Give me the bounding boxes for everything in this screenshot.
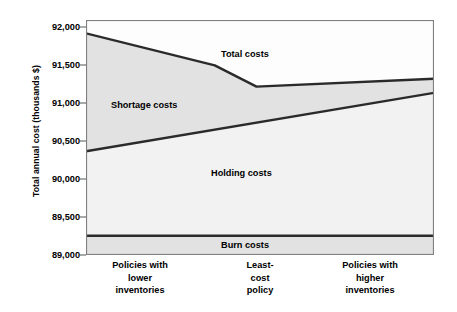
y-tick-label: 91,000 <box>22 98 80 108</box>
x-tick-line: lower <box>85 272 195 285</box>
y-axis-tick-labels: 92,000 91,500 91,000 90,500 90,000 89,50… <box>22 0 80 312</box>
x-tick-line: Policies with <box>85 259 195 272</box>
annotation-shortage-costs: Shortage costs <box>111 100 177 110</box>
x-tick-label-lower-inventories: Policies with lower inventories <box>85 259 195 297</box>
x-tick-line: Policies with <box>315 259 425 272</box>
x-tick-line: cost <box>205 272 315 285</box>
annotation-total-costs: Total costs <box>221 49 269 59</box>
y-tick-label: 92,000 <box>22 22 80 32</box>
x-tick-line: inventories <box>85 284 195 297</box>
x-axis-tick-labels: Policies with lower inventories Least- c… <box>86 259 434 311</box>
y-tick-label: 89,000 <box>22 250 80 260</box>
x-tick-line: policy <box>205 284 315 297</box>
chart-container: Total annual cost (thousands $) 92,000 9… <box>0 0 457 312</box>
annotation-holding-costs: Holding costs <box>211 168 272 178</box>
y-tick-label: 89,500 <box>22 212 80 222</box>
x-tick-line: higher <box>315 272 425 285</box>
x-tick-label-least-cost-policy: Least- cost policy <box>205 259 315 297</box>
y-tick-label: 90,500 <box>22 136 80 146</box>
y-tick-label: 91,500 <box>22 60 80 70</box>
annotation-burn-costs: Burn costs <box>221 240 269 250</box>
x-tick-line: inventories <box>315 284 425 297</box>
y-tick-label: 90,000 <box>22 174 80 184</box>
x-tick-line: Least- <box>205 259 315 272</box>
x-tick-label-higher-inventories: Policies with higher inventories <box>315 259 425 297</box>
